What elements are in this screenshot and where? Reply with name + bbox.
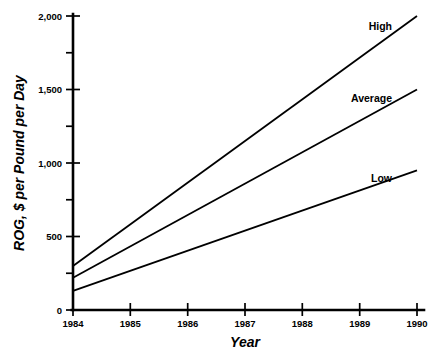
x-tick-label-1987: 1987 bbox=[234, 318, 255, 329]
y-tick-label-1000: 1,000 bbox=[38, 158, 62, 169]
y-tick-label-2000: 2,000 bbox=[38, 11, 62, 22]
x-tick-label-1986: 1986 bbox=[177, 318, 198, 329]
series-label-high: High bbox=[369, 20, 392, 32]
x-axis-title: Year bbox=[230, 334, 261, 350]
series-label-low: Low bbox=[371, 172, 393, 184]
x-tick-label-1990: 1990 bbox=[406, 318, 427, 329]
line-chart-canvas: 0 500 1,000 1,500 2,000 1984 1985 1986 1… bbox=[0, 0, 438, 355]
x-tick-label-1989: 1989 bbox=[349, 318, 370, 329]
series-label-average: Average bbox=[351, 92, 392, 104]
y-tick-label-1500: 1,500 bbox=[38, 84, 62, 95]
y-axis-title: ROG, $ per Pound per Day bbox=[11, 74, 27, 251]
chart-figure: 0 500 1,000 1,500 2,000 1984 1985 1986 1… bbox=[0, 0, 438, 355]
x-tick-label-1984: 1984 bbox=[62, 318, 84, 329]
y-tick-label-0: 0 bbox=[57, 305, 62, 316]
x-tick-label-1988: 1988 bbox=[292, 318, 313, 329]
y-tick-label-500: 500 bbox=[46, 231, 62, 242]
x-tick-label-1985: 1985 bbox=[120, 318, 142, 329]
